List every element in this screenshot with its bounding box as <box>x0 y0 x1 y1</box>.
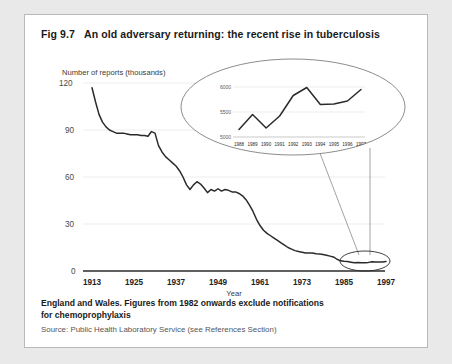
y-tick-0: 0 <box>71 267 76 276</box>
footnote-block: England and Wales. Figures from 1982 onw… <box>41 297 411 335</box>
inset-x-tick-1988: 1988 <box>234 142 245 147</box>
inset-x-tick-1996: 1996 <box>342 142 353 147</box>
x-tick-1937: 1937 <box>167 278 186 287</box>
x-tick-1997: 1997 <box>377 278 396 287</box>
x-tick-1973: 1973 <box>293 278 312 287</box>
y-tick-90: 90 <box>65 126 75 135</box>
inset-y-tick-5000: 5000 <box>220 134 231 140</box>
inset-x-tick-1995: 1995 <box>329 142 340 147</box>
inset-ellipse-frame <box>181 59 405 155</box>
inset-x-tick-1990: 1990 <box>261 142 272 147</box>
x-tick-1925: 1925 <box>125 278 144 287</box>
x-axis-labels: 1913 1925 1937 1949 1961 1973 1985 1997 … <box>83 278 396 298</box>
inset-callout: 6000 5500 5000 1988198919901991199219931… <box>181 59 405 155</box>
y-tick-60: 60 <box>65 173 75 182</box>
inset-x-tick-1992: 1992 <box>288 142 299 147</box>
inset-y-tick-6000: 6000 <box>220 84 231 90</box>
x-tick-1961: 1961 <box>251 278 270 287</box>
inset-y-tick-5500: 5500 <box>220 109 231 115</box>
x-tick-1985: 1985 <box>335 278 354 287</box>
inset-x-tick-1994: 1994 <box>315 142 326 147</box>
inset-x-tick-1993: 1993 <box>302 142 313 147</box>
footnote-line-2: for chemoprophylaxis <box>41 309 411 321</box>
footnote-source: Source: Public Health Laboratory Service… <box>41 324 411 335</box>
inset-x-tick-1989: 1989 <box>247 142 258 147</box>
footnote-line-1: England and Wales. Figures from 1982 onw… <box>41 297 411 309</box>
y-tick-30: 30 <box>65 220 75 229</box>
x-tick-1913: 1913 <box>83 278 102 287</box>
figure-panel: Fig 9.7An old adversary returning: the r… <box>24 14 428 348</box>
x-tick-1949: 1949 <box>209 278 228 287</box>
y-axis-title: Number of reports (thousands) <box>62 68 166 77</box>
y-tick-120: 120 <box>59 79 73 88</box>
inset-x-tick-1991: 1991 <box>275 142 286 147</box>
callout-leader-lines <box>318 148 370 255</box>
y-axis-labels: Number of reports (thousands) 120 90 60 … <box>59 68 166 276</box>
